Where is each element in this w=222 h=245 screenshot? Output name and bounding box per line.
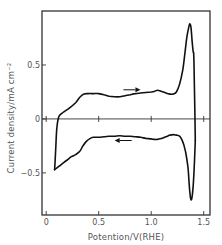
- y-tick-label: 0.5: [27, 61, 40, 70]
- cyclic-voltammogram-chart: 00.51.01.5 0.50−0.5 Potention/V(RHE) Cur…: [0, 0, 222, 245]
- anodic-sweep-curve: [55, 24, 196, 170]
- x-axis-title: Potention/V(RHE): [88, 232, 164, 242]
- x-tick-label: 1.5: [197, 218, 210, 227]
- y-tick-label: 0: [35, 115, 40, 124]
- sweep-direction-arrow-left: [115, 138, 132, 143]
- sweep-direction-arrow-right: [123, 87, 140, 92]
- y-axis-title: Current density/mA cm⁻²: [6, 63, 16, 174]
- x-tick-label: 0.5: [92, 218, 105, 227]
- arrow-head-icon: [115, 138, 120, 143]
- x-tick-label: 0: [44, 218, 49, 227]
- arrow-head-icon: [135, 87, 140, 92]
- x-tick-label: 1.0: [145, 218, 158, 227]
- plot-frame: [42, 11, 210, 215]
- y-tick-label: −0.5: [21, 169, 40, 178]
- cathodic-sweep-curve: [55, 135, 196, 200]
